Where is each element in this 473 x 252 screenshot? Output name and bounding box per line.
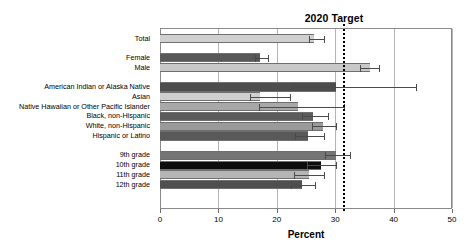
target-line: [343, 24, 345, 211]
category-label: Native Hawaiian or Other Pacific Islande…: [0, 103, 156, 110]
category-label: Total: [0, 35, 156, 42]
x-tick-label: 30: [331, 215, 340, 224]
error-bar: [312, 126, 336, 127]
error-bar: [250, 97, 290, 98]
x-tick: [160, 209, 161, 213]
error-bar-cap: [307, 162, 308, 169]
bar: [160, 112, 313, 121]
error-bar-cap: [315, 182, 316, 189]
error-bar-cap: [294, 84, 295, 91]
category-label: 11th grade: [0, 171, 156, 178]
error-bar-cap: [309, 36, 310, 43]
error-bar-cap: [268, 55, 269, 62]
x-tick: [218, 209, 219, 213]
bar: [160, 180, 302, 189]
error-bar-cap: [312, 123, 313, 130]
category-label: American Indian or Alaska Native: [0, 83, 156, 90]
category-label: White, non-Hispanic: [0, 122, 156, 129]
error-bar-cap: [290, 94, 291, 101]
bar: [160, 131, 308, 140]
error-bar-cap: [295, 133, 296, 140]
error-bar-cap: [324, 133, 325, 140]
bar: [160, 63, 370, 72]
category-label: 12th grade: [0, 181, 156, 188]
category-label: Black, non-Hispanic: [0, 112, 156, 119]
error-bar-cap: [302, 113, 303, 120]
error-bar-cap: [360, 65, 361, 72]
category-label: 9th grade: [0, 151, 156, 158]
error-bar: [294, 87, 416, 88]
x-tick: [394, 209, 395, 213]
x-tick-label: 10: [214, 215, 223, 224]
error-bar: [255, 58, 268, 59]
error-bar-cap: [324, 36, 325, 43]
x-tick-label: 0: [158, 215, 162, 224]
x-tick: [452, 209, 453, 213]
error-bar-cap: [294, 172, 295, 179]
category-label: 10th grade: [0, 161, 156, 168]
x-tick-label: 50: [448, 215, 457, 224]
error-bar-cap: [291, 182, 292, 189]
x-tick: [335, 209, 336, 213]
error-bar-cap: [250, 94, 251, 101]
bar: [160, 151, 336, 160]
error-bar-cap: [324, 172, 325, 179]
error-bar: [291, 185, 314, 186]
error-bar-cap: [259, 104, 260, 111]
error-bar-cap: [379, 65, 380, 72]
error-bar: [295, 136, 324, 137]
error-bar: [309, 39, 324, 40]
category-label: Asian: [0, 93, 156, 100]
error-bar-cap: [328, 113, 329, 120]
error-bar-cap: [325, 152, 326, 159]
bar: [160, 161, 321, 170]
error-bar-cap: [350, 152, 351, 159]
error-bar: [294, 175, 323, 176]
error-bar: [259, 107, 344, 108]
error-bar-cap: [416, 84, 417, 91]
bar-chart: 2020 Target TotalFemaleMaleAmerican Indi…: [0, 0, 473, 252]
error-bar: [307, 165, 337, 166]
error-bar-cap: [336, 123, 337, 130]
bar: [160, 92, 260, 101]
error-bar: [360, 68, 379, 69]
error-bar-cap: [255, 55, 256, 62]
category-label: Female: [0, 54, 156, 61]
x-tick: [277, 209, 278, 213]
bar: [160, 34, 314, 43]
bar: [160, 122, 323, 131]
category-label: Male: [0, 64, 156, 71]
x-tick-label: 20: [272, 215, 281, 224]
error-bar: [325, 155, 351, 156]
category-label: Hispanic or Latino: [0, 132, 156, 139]
x-axis-title: Percent: [288, 229, 325, 240]
bar: [160, 170, 309, 179]
x-tick-label: 40: [389, 215, 398, 224]
error-bar: [302, 116, 328, 117]
error-bar-cap: [336, 162, 337, 169]
bar: [160, 53, 260, 62]
chart-overlay: TotalFemaleMaleAmerican Indian or Alaska…: [0, 0, 473, 252]
